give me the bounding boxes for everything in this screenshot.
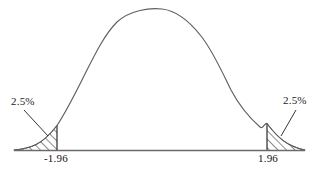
normal-distribution-curve <box>14 9 305 150</box>
left-tail-percent-label: 2.5% <box>11 95 35 107</box>
x-tick-label-1-96: 1.96 <box>258 152 278 164</box>
x-tick-label-negative-1-96: -1.96 <box>44 152 68 164</box>
normal-distribution-figure: 2.5% 2.5% -1.96 1.96 <box>0 0 319 172</box>
right-annotation-leader-line <box>281 110 296 136</box>
distribution-plot <box>0 0 319 172</box>
right-tail-percent-label: 2.5% <box>283 94 307 106</box>
left-annotation-leader-line <box>24 110 48 136</box>
right-tail-shaded-region <box>263 118 309 152</box>
